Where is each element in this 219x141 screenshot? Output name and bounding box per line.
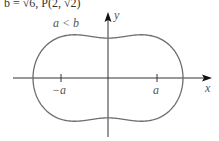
cassini-oval-diagram: b = √6, P(2, √2) x y a < b −a a xyxy=(0,0,219,141)
tick-label-pos-a: a xyxy=(153,83,159,97)
condition-label: a < b xyxy=(53,16,79,30)
header-text: b = √6, P(2, √2) xyxy=(4,0,81,10)
x-axis-label: x xyxy=(204,81,211,95)
tick-label-neg-a: −a xyxy=(52,83,66,97)
y-axis-label: y xyxy=(113,8,120,22)
